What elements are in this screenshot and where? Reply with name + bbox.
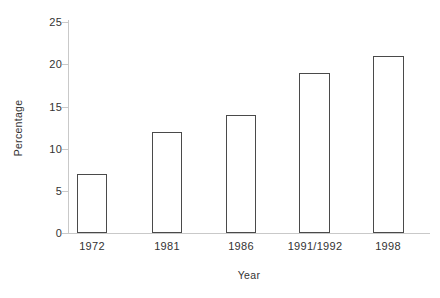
y-tick-label-15-wrap: 15 [26,102,62,113]
y-tick-mark-25 [62,22,68,23]
y-axis-line [68,20,69,234]
y-tick-label-0-wrap: 0 [26,228,62,239]
y-tick-mark-5 [62,191,68,192]
y-tick-mark-10 [62,149,68,150]
y-tick-mark-15 [62,107,68,108]
y-tick-label-15: 15 [36,102,62,113]
x-tick-label-1972: 1972 [62,240,122,253]
y-tick-label-20-wrap: 20 [26,59,62,70]
y-tick-label-10-wrap: 10 [26,144,62,155]
bar-1986 [226,115,256,233]
y-tick-label-5: 5 [36,186,62,197]
bar-1998 [373,56,404,233]
x-axis-line [68,233,430,234]
bar-1972 [77,174,107,233]
y-axis-title: Percentage [12,93,24,163]
y-tick-label-10: 10 [36,144,62,155]
x-tick-label-1998: 1998 [358,240,418,253]
y-tick-mark-0 [62,233,68,234]
y-tick-label-0: 0 [36,228,62,239]
y-tick-label-25-wrap: 25 [26,17,62,28]
y-tick-label-20: 20 [36,59,62,70]
y-tick-label-5-wrap: 5 [26,186,62,197]
x-tick-label-1986: 1986 [211,240,271,253]
x-axis-title: Year [68,269,430,281]
x-tick-label-1991-1992: 1991/1992 [271,240,359,253]
bar-chart-figure: 0 5 10 15 20 25 1972 1981 1986 1991/1992… [0,0,440,298]
y-tick-label-25: 25 [36,17,62,28]
bar-1991-1992 [299,73,330,233]
x-tick-label-1981: 1981 [137,240,197,253]
y-tick-mark-20 [62,64,68,65]
bar-1981 [152,132,182,233]
